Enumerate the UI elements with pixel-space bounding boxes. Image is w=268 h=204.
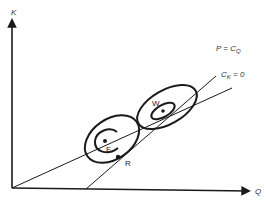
point-w-label: W [152,99,160,108]
cost-line-label: CK = 0 [221,70,245,80]
point-f-label: F [106,145,111,154]
y-axis-label: K [11,8,17,17]
price-line-label: P = CQ [216,44,241,54]
x-axis-label: Q [255,187,261,196]
point-r [116,155,120,159]
isoprofit-diagram: K Q P = CQ CK = 0 F W R [0,0,268,204]
point-w [161,109,165,113]
point-r-label: R [125,159,131,168]
point-f [103,139,107,143]
cost-zero-line [12,88,232,188]
x-axis [12,188,249,191]
